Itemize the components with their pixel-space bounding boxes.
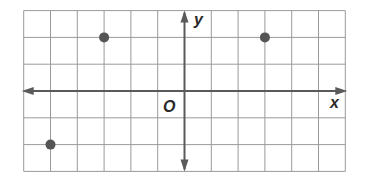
data-point (46, 140, 56, 150)
origin-label: O (163, 98, 176, 115)
axes (22, 11, 348, 172)
y-axis-down-arrow-icon (181, 159, 189, 171)
y-axis-up-arrow-icon (181, 11, 189, 23)
coordinate-plane: x y O (0, 0, 366, 182)
data-point (260, 32, 270, 42)
data-point (99, 32, 109, 42)
y-axis-label: y (193, 11, 204, 28)
x-axis-label: x (329, 94, 340, 111)
